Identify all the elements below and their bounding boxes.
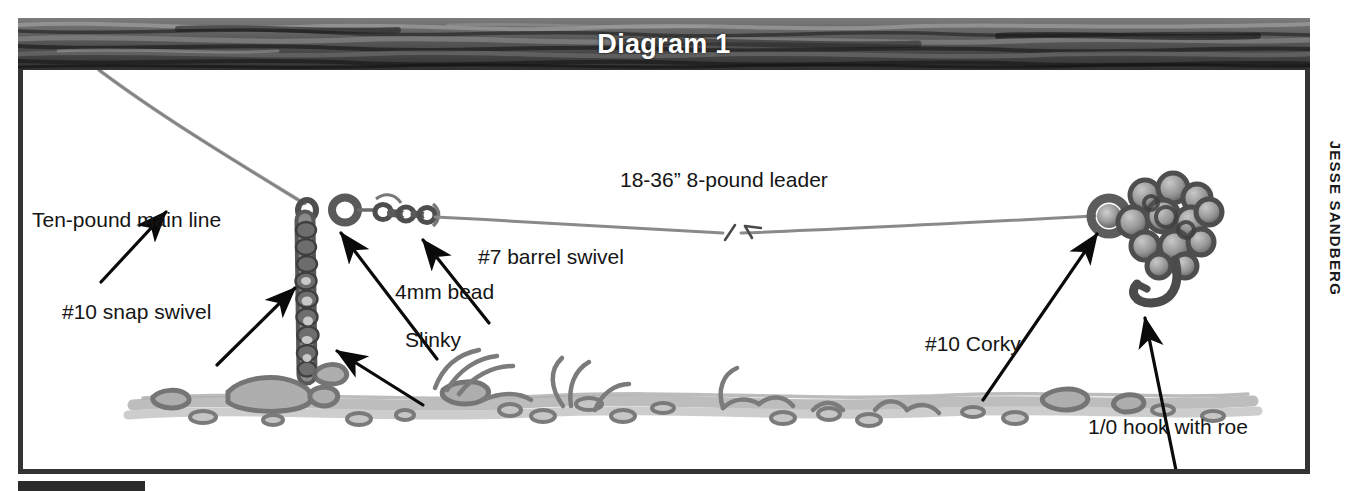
label-bead: 4mm bead [395,280,494,304]
barrel-swivel-graphic [357,195,439,226]
label-slinky: Slinky [405,328,461,352]
leader-break-mark-left [725,225,735,240]
arrow-hook-roe [1145,318,1179,469]
bottom-accent-bar [18,481,145,491]
diagram-title: Diagram 1 [18,18,1310,70]
label-hook-with-roe: 1/0 hook with roe [1088,415,1248,439]
arrow-corky [983,234,1097,400]
diagram-canvas [23,70,1305,469]
main-line-graphic [99,70,305,204]
arrow-snap-swivel [217,288,295,365]
roe-cluster-graphic [1118,173,1222,278]
label-snap-swivel: #10 snap swivel [62,300,211,324]
label-barrel-swivel: #7 barrel swivel [478,245,624,269]
leader-line-graphic [435,216,1095,240]
figure-page: Diagram 1 [0,0,1346,491]
diagram-banner: Diagram 1 [18,18,1310,70]
label-corky: #10 Corky [925,332,1021,356]
bead-graphic [332,198,358,223]
photo-credit: JESSE SANDBERG [1327,141,1344,296]
label-main-line: Ten-pound main line [32,208,221,232]
label-leader: 18-36” 8-pound leader [620,168,828,192]
slinky-weight-graphic [296,220,319,377]
